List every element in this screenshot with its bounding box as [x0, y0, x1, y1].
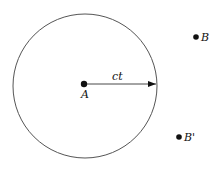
point-b-prime-dot: [176, 134, 182, 140]
radius-label: ct: [112, 70, 123, 83]
point-b-prime-label: B': [183, 131, 195, 144]
point-a-dot: [81, 81, 87, 87]
point-b-label: B: [200, 31, 209, 44]
light-cone-diagram: ct A B B': [0, 0, 220, 170]
point-a-label: A: [80, 88, 89, 101]
point-b-dot: [193, 34, 199, 40]
